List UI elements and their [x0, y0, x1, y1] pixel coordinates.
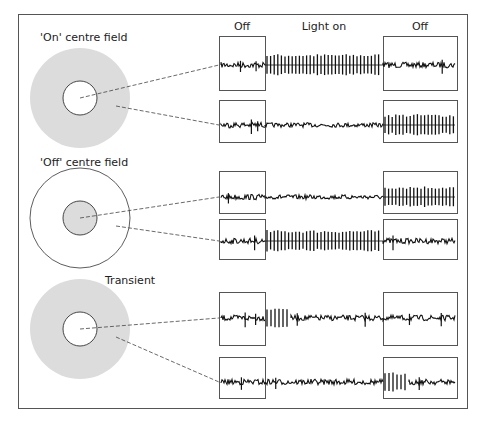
noise-trace — [383, 238, 455, 244]
noise-trace — [265, 123, 383, 127]
noise-trace — [221, 62, 265, 67]
off-window-before — [220, 101, 266, 143]
noise-trace — [383, 315, 455, 321]
noise-trace — [221, 122, 265, 128]
label-transient: Transient — [104, 274, 156, 287]
off-window-before — [220, 358, 266, 399]
label-off-centre-field: 'Off' centre field — [40, 156, 128, 169]
noise-trace — [221, 379, 265, 384]
receptive-field-1 — [30, 168, 219, 268]
header-light-on: Light on — [302, 20, 347, 33]
noise-trace — [265, 195, 383, 199]
receptive-field-0 — [30, 48, 219, 148]
response-trace-1-0 — [220, 172, 458, 214]
label-on-centre-field: 'On' centre field — [40, 31, 128, 44]
response-trace-0-1 — [220, 101, 458, 143]
connector-surround — [116, 226, 219, 241]
header-off-after: Off — [412, 20, 429, 33]
noise-trace — [221, 238, 265, 243]
response-trace-2-0 — [220, 293, 458, 346]
receptive-field-diagram: Off Light on Off 'On' centre field 'Off'… — [0, 0, 482, 425]
off-window-after — [384, 358, 458, 399]
noise-trace — [221, 194, 265, 199]
noise-trace — [383, 62, 455, 68]
response-trace-1-1 — [220, 220, 458, 260]
connector-surround — [116, 106, 219, 125]
noise-trace — [291, 315, 383, 320]
connector-surround — [116, 337, 219, 382]
noise-trace — [265, 379, 383, 385]
response-trace-0-0 — [220, 37, 458, 91]
noise-trace — [409, 379, 455, 384]
off-window-before — [220, 172, 266, 214]
response-trace-2-1 — [220, 358, 458, 399]
header-off-before: Off — [234, 20, 251, 33]
receptive-field-2 — [30, 279, 219, 382]
noise-trace — [221, 315, 265, 320]
off-window-after — [384, 293, 458, 346]
